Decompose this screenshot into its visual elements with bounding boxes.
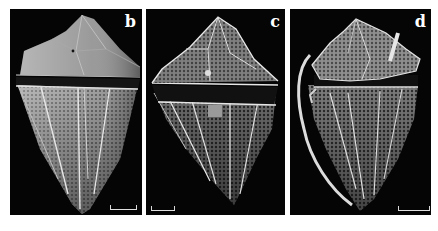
specimen-c-image bbox=[146, 9, 285, 215]
panel-c: c bbox=[146, 9, 285, 215]
panel-label-d: d bbox=[415, 14, 426, 30]
panel-label-c: c bbox=[270, 14, 280, 30]
specimen-d-image bbox=[290, 9, 431, 215]
panel-b: b bbox=[10, 9, 142, 215]
scale-bar-b bbox=[110, 205, 137, 210]
scale-bar-d bbox=[398, 206, 430, 211]
scale-bar-c bbox=[151, 206, 175, 211]
panel-d: d bbox=[290, 9, 431, 215]
panel-label-b: b bbox=[125, 14, 136, 30]
specimen-b-image bbox=[10, 9, 142, 215]
